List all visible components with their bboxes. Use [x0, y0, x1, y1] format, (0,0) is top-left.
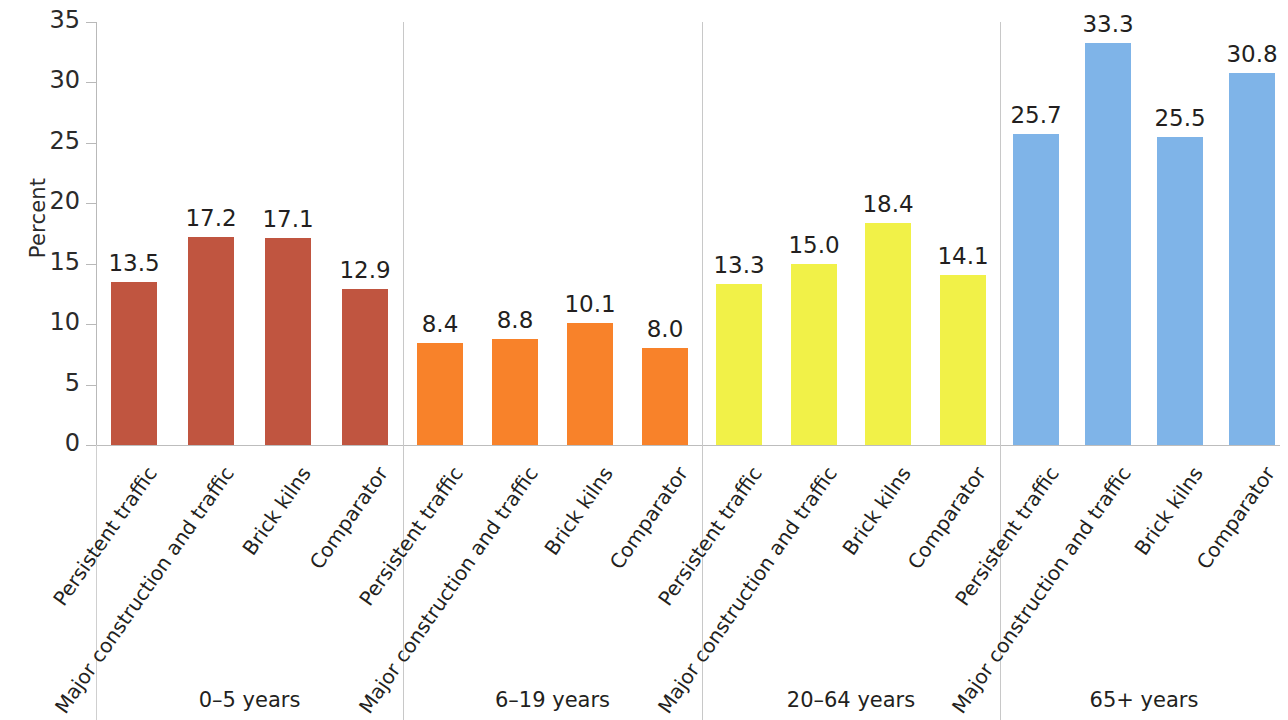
- bar-value-label: 25.5: [1135, 105, 1225, 131]
- bar-value-label: 8.0: [620, 316, 710, 342]
- bar: [716, 284, 762, 445]
- y-axis-tick-label: 35: [20, 6, 80, 34]
- y-axis-tick-label: 10: [20, 308, 80, 336]
- bar: [417, 343, 463, 445]
- bar-value-label: 13.5: [89, 250, 179, 276]
- bar: [791, 264, 837, 445]
- group-label: 0–5 years: [96, 688, 403, 712]
- y-axis-tick-label: 15: [20, 248, 80, 276]
- group-separator: [403, 22, 404, 720]
- bar-value-label: 10.1: [545, 291, 635, 317]
- y-axis-tick-label: 5: [20, 369, 80, 397]
- bar-value-label: 30.8: [1207, 41, 1288, 67]
- y-axis-tick-label: 0: [20, 429, 80, 457]
- x-axis-baseline: [96, 445, 1280, 446]
- group-separator: [702, 22, 703, 720]
- y-axis-tick: [86, 385, 97, 386]
- bar: [492, 339, 538, 445]
- y-axis-tick: [86, 143, 97, 144]
- bar-value-label: 33.3: [1063, 11, 1153, 37]
- group-label: 20–64 years: [702, 688, 1000, 712]
- bar: [642, 348, 688, 445]
- y-axis-tick-label: 25: [20, 127, 80, 155]
- bar: [1085, 43, 1131, 445]
- bar: [1229, 73, 1275, 445]
- y-axis-tick: [86, 203, 97, 204]
- bar-chart: Percent 05101520253035 13.517.217.112.98…: [0, 0, 1288, 720]
- bar-value-label: 18.4: [843, 191, 933, 217]
- bar: [111, 282, 157, 445]
- bar: [865, 223, 911, 445]
- bar-value-label: 25.7: [991, 102, 1081, 128]
- y-axis-tick: [86, 324, 97, 325]
- group-label: 6–19 years: [403, 688, 702, 712]
- bar: [940, 275, 986, 445]
- bar-value-label: 15.0: [769, 232, 859, 258]
- bar: [188, 237, 234, 445]
- bar-value-label: 14.1: [918, 243, 1008, 269]
- bar-value-label: 17.1: [243, 206, 333, 232]
- bar: [567, 323, 613, 445]
- y-axis-tick: [86, 82, 97, 83]
- y-axis-tick: [86, 22, 97, 23]
- y-axis-tick-label: 20: [20, 187, 80, 215]
- y-axis-line: [96, 22, 97, 446]
- bar: [1157, 137, 1203, 445]
- bar: [342, 289, 388, 445]
- bar: [265, 238, 311, 445]
- y-axis-tick-label: 30: [20, 66, 80, 94]
- bar: [1013, 134, 1059, 445]
- group-label: 65+ years: [1000, 688, 1288, 712]
- bar-value-label: 12.9: [320, 257, 410, 283]
